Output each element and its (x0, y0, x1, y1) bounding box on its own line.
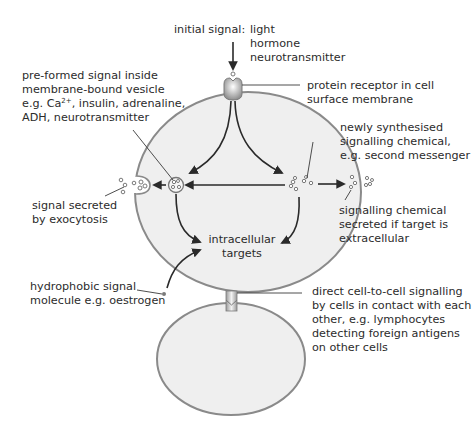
exocytosis-label-line1: signal secreted (32, 199, 117, 212)
upper-cell (135, 92, 361, 292)
signal-type-hormone: hormone (250, 37, 300, 50)
cell-signalling-diagram: initial signal: light hormone neurotrans… (0, 0, 473, 428)
newly-synthesised-label-line2: signalling chemical, (340, 135, 451, 148)
hydrophobic-label-line2: molecule e.g. oestrogen (30, 294, 165, 307)
preformed-label-line4: ADH, neurotransmitter (22, 111, 149, 124)
exocytosis-pit (131, 176, 150, 194)
vesicle-icon (169, 178, 184, 193)
lower-cell (157, 303, 305, 415)
secreted-molecules (119, 178, 127, 194)
direct-contact-label-line5: on other cells (312, 341, 388, 354)
newly-synthesised-label-line3: e.g. second messenger (340, 149, 471, 162)
direct-contact-label-line1: direct cell-to-cell signalling (312, 285, 463, 298)
diagram-canvas: initial signal: light hormone neurotrans… (0, 0, 473, 428)
preformed-label-line2: membrane-bound vesicle (22, 83, 165, 96)
cell-junction-icon (226, 291, 237, 311)
signal-type-neurotransmitter: neurotransmitter (250, 51, 346, 64)
receptor-icon (224, 72, 242, 100)
receptor-label-line2: surface membrane (307, 93, 413, 106)
receptor-label-line1: protein receptor in cell (307, 79, 434, 92)
targets-label-line2: targets (222, 247, 262, 260)
extracellular-label-line3: extracellular (339, 232, 409, 245)
direct-contact-label-line2: by cells in contact with each (312, 299, 471, 312)
hydrophobic-label-line1: hydrophobic signal (30, 280, 136, 293)
targets-label-line1: intracellular (209, 233, 276, 246)
preformed-label-line3: e.g. Ca2+, insulin, adrenaline, (22, 97, 185, 110)
newly-synthesised-label-line1: newly synthesised (340, 121, 443, 134)
extracellular-label-line2: secreted if target is (339, 218, 448, 231)
extracellular-label-line1: signalling chemical (339, 204, 446, 217)
preformed-label-line1: pre-formed signal inside (22, 69, 158, 82)
exocytosis-label-line2: by exocytosis (32, 213, 108, 226)
initial-signal-label: initial signal: (174, 23, 245, 36)
signal-type-light: light (250, 23, 275, 36)
direct-contact-label-line3: other, e.g. lymphocytes (312, 313, 445, 326)
direct-contact-label-line4: detecting foreign antigens (312, 327, 460, 340)
